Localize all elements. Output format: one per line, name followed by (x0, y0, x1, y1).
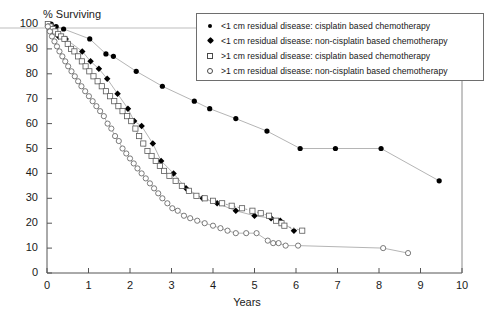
data-point (112, 133, 117, 138)
y-tick-label: 0 (8, 266, 38, 278)
data-point (150, 140, 157, 147)
data-point (405, 250, 410, 255)
data-point (179, 183, 184, 188)
data-point (378, 146, 383, 151)
data-point (72, 74, 77, 79)
data-point (109, 126, 114, 131)
data-point (83, 89, 88, 94)
data-point (210, 223, 215, 228)
y-axis-title: % Surviving (43, 8, 101, 20)
data-point (79, 84, 84, 89)
data-point (282, 223, 287, 228)
open-circle-marker-icon (203, 64, 217, 78)
data-point (60, 54, 65, 59)
data-point (266, 213, 271, 218)
data-point (298, 146, 303, 151)
open-square-marker-icon (203, 49, 217, 63)
data-point (127, 156, 132, 161)
data-point (156, 191, 161, 196)
data-point (220, 201, 225, 206)
filled-diamond-marker-icon (203, 34, 217, 48)
x-tick-label: 2 (118, 279, 142, 291)
data-point (54, 44, 59, 49)
data-point (186, 188, 191, 193)
data-point (295, 243, 300, 248)
data-point (120, 146, 125, 151)
data-point (147, 181, 152, 186)
data-point (94, 104, 99, 109)
chart-root: % Surviving Years 0102030405060708090100… (0, 0, 494, 320)
data-point (254, 231, 259, 236)
data-point (381, 246, 386, 251)
data-point (107, 94, 112, 99)
chart-legend: <1 cm residual disease: cisplatin based … (196, 13, 484, 81)
data-point (87, 36, 92, 41)
data-point (129, 119, 134, 124)
data-point (61, 26, 66, 31)
y-tick-label: 40 (8, 166, 38, 178)
data-point (143, 176, 148, 181)
data-point (181, 213, 186, 218)
data-point (69, 69, 74, 74)
data-point (137, 133, 142, 138)
data-point (87, 69, 92, 74)
data-point (86, 94, 91, 99)
data-point (264, 128, 269, 133)
data-point (112, 99, 117, 104)
y-tick-label: 50 (8, 142, 38, 154)
data-point (437, 178, 442, 183)
data-point (139, 171, 144, 176)
y-tick-label: 100 (8, 17, 38, 29)
y-tick-label: 80 (8, 67, 38, 79)
data-point (239, 206, 244, 211)
data-point (103, 89, 108, 94)
data-point (91, 74, 96, 79)
data-point (258, 211, 263, 216)
data-point (202, 196, 207, 201)
data-point (210, 198, 215, 203)
data-point (300, 228, 305, 233)
data-point (45, 24, 50, 29)
data-point (135, 166, 140, 171)
data-point (244, 231, 249, 236)
y-tick-label: 90 (8, 42, 38, 54)
data-point (125, 105, 132, 112)
data-point (138, 123, 145, 130)
data-point (49, 34, 54, 39)
x-tick-label: 0 (35, 279, 59, 291)
data-point (173, 178, 178, 183)
data-point (114, 90, 121, 97)
data-point (134, 69, 139, 74)
x-tick-label: 7 (326, 279, 350, 291)
data-point (149, 153, 154, 158)
x-tick-label: 6 (284, 279, 308, 291)
data-point (195, 218, 200, 223)
legend-item-0: <1 cm residual disease: cisplatin based … (203, 18, 477, 33)
data-point (194, 193, 199, 198)
data-point (72, 49, 77, 54)
data-point (90, 99, 95, 104)
data-point (233, 231, 238, 236)
data-point (141, 141, 146, 146)
y-tick-label: 60 (8, 117, 38, 129)
data-point (167, 173, 172, 178)
data-point (188, 216, 193, 221)
data-point (333, 146, 338, 151)
data-point (265, 238, 270, 243)
data-point (170, 206, 175, 211)
data-point (283, 243, 288, 248)
data-point (111, 54, 116, 59)
x-tick-label: 10 (450, 279, 474, 291)
data-point (218, 226, 223, 231)
y-tick-label: 20 (8, 216, 38, 228)
data-point (276, 241, 281, 246)
data-point (65, 41, 70, 46)
y-tick-label: 70 (8, 92, 38, 104)
data-point (273, 218, 278, 223)
data-point (98, 109, 103, 114)
x-tick-label: 3 (160, 279, 184, 291)
data-point (76, 79, 81, 84)
data-point (95, 79, 100, 84)
data-point (83, 64, 88, 69)
data-point (120, 109, 125, 114)
